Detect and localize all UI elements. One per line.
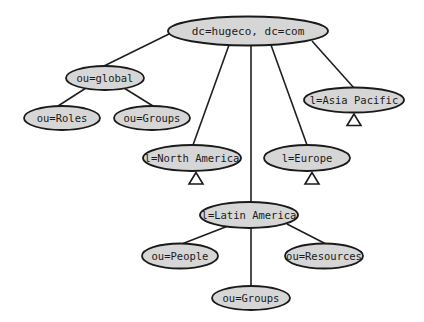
collapsed-subtree-icon-north-america[interactable] bbox=[189, 173, 203, 185]
node-la-groups-label: ou=Groups bbox=[223, 292, 280, 304]
node-latin-america-label: l=Latin America bbox=[202, 209, 297, 221]
node-north-america[interactable]: l=North America bbox=[143, 145, 241, 171]
node-root[interactable]: dc=hugeco, dc=com bbox=[168, 17, 328, 46]
edge-latin-america-resources bbox=[287, 224, 325, 244]
node-resources-label: ou=Resources bbox=[286, 250, 362, 262]
node-roles[interactable]: ou=Roles bbox=[24, 106, 100, 130]
node-europe[interactable]: l=Europe bbox=[264, 145, 350, 171]
node-asia-pacific[interactable]: l=Asia Pacific bbox=[304, 88, 404, 113]
node-global-groups[interactable]: ou=Groups bbox=[114, 106, 190, 130]
collapsed-subtree-icon-europe[interactable] bbox=[305, 173, 319, 185]
edge-root-global bbox=[104, 33, 171, 66]
node-people[interactable]: ou=People bbox=[142, 244, 218, 269]
edge-latin-america-people bbox=[183, 226, 228, 244]
node-north-america-label: l=North America bbox=[145, 152, 240, 164]
node-people-label: ou=People bbox=[152, 250, 209, 262]
node-global-groups-label: ou=Groups bbox=[124, 112, 181, 124]
edge-root-asia-pacific bbox=[312, 41, 354, 88]
edge-global-roles bbox=[58, 88, 86, 106]
ldap-tree-diagram: dc=hugeco, dc=com ou=global ou=Roles ou=… bbox=[0, 0, 424, 322]
edge-root-europe bbox=[271, 45, 307, 145]
collapsed-subtree-icon-asia-pacific[interactable] bbox=[347, 114, 361, 126]
edge-global-groups bbox=[124, 88, 153, 106]
node-roles-label: ou=Roles bbox=[37, 112, 88, 124]
node-global-label: ou=global bbox=[77, 72, 134, 84]
node-global[interactable]: ou=global bbox=[66, 66, 144, 90]
node-root-label: dc=hugeco, dc=com bbox=[192, 25, 305, 38]
edge-root-north-america bbox=[193, 45, 229, 145]
node-resources[interactable]: ou=Resources bbox=[285, 244, 363, 269]
node-asia-pacific-label: l=Asia Pacific bbox=[310, 94, 399, 106]
node-latin-america[interactable]: l=Latin America bbox=[200, 202, 298, 228]
node-europe-label: l=Europe bbox=[282, 152, 333, 164]
node-la-groups[interactable]: ou=Groups bbox=[212, 286, 290, 310]
